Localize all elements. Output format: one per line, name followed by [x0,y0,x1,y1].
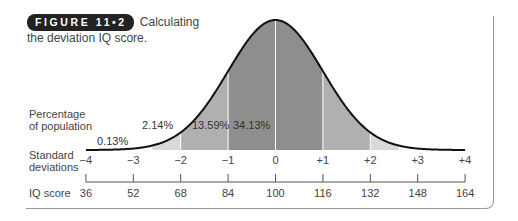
iq-tick-label: 68 [175,187,187,199]
pct-label-0-13: 0.13% [97,135,128,147]
iq-tick-label: 52 [127,187,139,199]
pct-label-34-13: 34.13% [233,119,270,131]
sd-tick-label: +2 [364,154,377,166]
percentage-row-label: Percentageof population [29,108,92,132]
sd-tick-label: −2 [174,154,187,166]
sd-tick-label: −4 [80,154,93,166]
pct-label-13-59: 13.59% [192,119,229,131]
sd-tick-label: −3 [127,154,140,166]
sd-tick-label: +4 [459,154,472,166]
iq-row-label: IQ score [29,187,71,199]
iq-tick-label: 36 [80,187,92,199]
iq-tick-label: 116 [314,187,332,199]
sd-row-label: Standarddeviations [29,149,79,173]
iq-tick-label: 164 [456,187,474,199]
iq-tick-label: 84 [222,187,234,199]
iq-tick-label: 148 [409,187,427,199]
iq-tick-label: 132 [361,187,379,199]
sd-tick-label: 0 [272,154,278,166]
sd-tick-label: +1 [317,154,330,166]
sd-tick-label: −1 [222,154,235,166]
sd-tick-label: +3 [411,154,424,166]
iq-tick-label: 100 [266,187,284,199]
pct-label-2-14: 2.14% [142,119,173,131]
